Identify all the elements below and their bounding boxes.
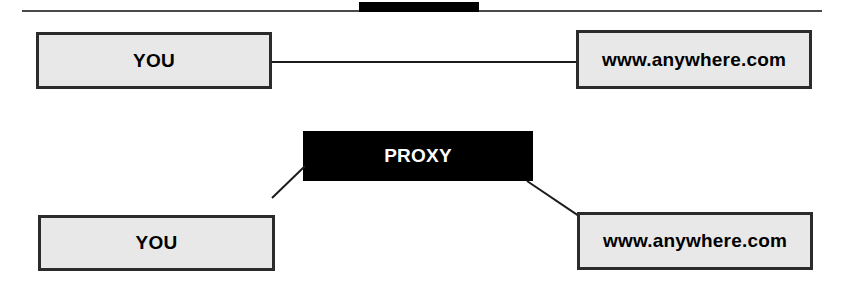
node-label: www.anywhere.com	[602, 49, 786, 71]
node-site-direct: www.anywhere.com	[576, 30, 812, 89]
node-label: PROXY	[384, 145, 452, 167]
node-label: www.anywhere.com	[603, 230, 787, 252]
link-you-to-proxy	[271, 165, 305, 198]
node-you-proxied: YOU	[38, 215, 275, 271]
node-label: YOU	[133, 50, 175, 72]
link-proxy-to-site	[526, 180, 579, 216]
node-proxy: PROXY	[303, 131, 533, 181]
cropped-black-box-stub	[359, 2, 479, 12]
link-you-to-site-direct	[272, 61, 577, 63]
node-site-proxied: www.anywhere.com	[577, 212, 813, 270]
node-you-direct: YOU	[36, 32, 272, 89]
diagram-canvas: YOU www.anywhere.com PROXY YOU www.anywh…	[0, 0, 844, 291]
node-label: YOU	[136, 232, 178, 254]
figure-title: Direct connection versus proxied connect…	[0, 0, 1, 1]
